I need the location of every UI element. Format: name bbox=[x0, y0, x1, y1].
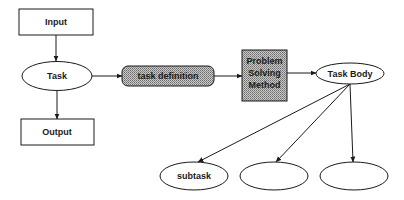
node-input: Input bbox=[19, 9, 93, 35]
node-problem-solving-method: Problem Solving Method bbox=[242, 50, 287, 101]
node-psm-label-line-1: Problem bbox=[246, 56, 282, 66]
node-subtask-label: subtask bbox=[177, 171, 212, 181]
node-task: Task bbox=[22, 62, 92, 91]
node-task-body: Task Body bbox=[316, 63, 384, 84]
node-task-label: Task bbox=[47, 71, 68, 81]
node-input-label: Input bbox=[45, 17, 67, 27]
node-output: Output bbox=[21, 119, 94, 145]
node-blank-2 bbox=[320, 162, 388, 190]
node-output-label: Output bbox=[42, 127, 72, 137]
node-task-definition-label: task definition bbox=[137, 71, 198, 81]
edges bbox=[56, 35, 353, 162]
node-subtask: subtask bbox=[160, 162, 228, 190]
node-psm-label-line-2: Solving bbox=[248, 68, 281, 78]
node-task-body-label: Task Body bbox=[328, 69, 373, 79]
node-blank-1 bbox=[240, 162, 308, 190]
task-decomposition-diagram: Input Task Output task definition Proble… bbox=[0, 0, 404, 200]
node-task-definition: task definition bbox=[122, 66, 214, 86]
edge-task-body-to-blank-2 bbox=[350, 84, 353, 162]
node-psm-label-line-3: Method bbox=[249, 80, 281, 90]
